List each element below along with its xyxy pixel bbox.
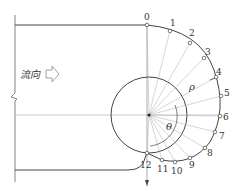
diagram-canvas: 0123456789101112 流向 ρ θ xyxy=(0,0,243,191)
point-label: 0 xyxy=(144,12,150,22)
rho-symbol: ρ xyxy=(188,81,195,92)
point-marker xyxy=(213,130,217,134)
point-marker xyxy=(188,41,192,45)
point-label: 5 xyxy=(224,88,230,98)
center-point xyxy=(148,114,151,117)
left-boundary-line xyxy=(11,15,17,182)
rho-arrow xyxy=(210,78,215,80)
outer-arc xyxy=(147,25,220,161)
down-arrow-icon xyxy=(145,180,149,186)
point-label: 10 xyxy=(171,166,183,176)
point-label: 4 xyxy=(216,67,222,77)
flow-direction-label: 流向 xyxy=(20,69,41,80)
point-label: 1 xyxy=(170,18,176,28)
point-label: 6 xyxy=(223,112,229,122)
point-marker xyxy=(160,158,164,162)
point-label: 11 xyxy=(157,164,168,174)
measurement-points: 0123456789101112 xyxy=(140,12,230,176)
point-marker xyxy=(219,94,223,98)
point-label: 9 xyxy=(189,160,195,170)
flow-arrow-icon xyxy=(46,66,59,82)
flow-diagram: 0123456789101112 流向 ρ θ xyxy=(0,0,243,191)
theta-symbol: θ xyxy=(166,121,172,132)
point-label: 12 xyxy=(140,160,151,170)
point-marker xyxy=(145,23,149,27)
point-label: 7 xyxy=(219,131,225,141)
point-marker xyxy=(168,29,172,33)
point-marker xyxy=(173,160,177,164)
bottom-wall-line xyxy=(15,153,147,170)
point-marker xyxy=(145,151,149,155)
point-label: 2 xyxy=(189,28,195,38)
point-marker xyxy=(218,114,222,118)
point-label: 3 xyxy=(205,47,211,57)
point-label: 8 xyxy=(207,148,213,158)
